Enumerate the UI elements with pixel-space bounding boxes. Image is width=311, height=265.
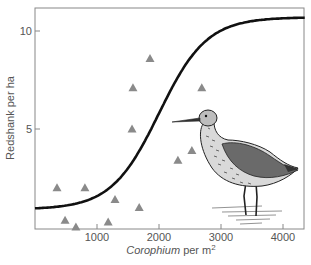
x-axis-title-rest: per m bbox=[180, 244, 211, 256]
y-tick-label: 10 bbox=[20, 25, 32, 37]
x-tick-label: 2000 bbox=[147, 231, 171, 243]
y-tick-label: 5 bbox=[26, 123, 32, 135]
x-axis-title-superscript: 2 bbox=[211, 243, 216, 252]
x-axis-title-italic: Corophium bbox=[126, 244, 180, 256]
redshank-chart: 510 1000200030004000 Re bbox=[0, 0, 311, 265]
y-axis-title: Redshank per ha bbox=[4, 75, 16, 160]
x-tick-label: 4000 bbox=[271, 231, 295, 243]
x-tick-label: 3000 bbox=[209, 231, 233, 243]
x-tick-label: 1000 bbox=[85, 231, 109, 243]
plot-frame bbox=[35, 8, 304, 229]
x-axis-title: Corophium per m2 bbox=[126, 243, 216, 256]
